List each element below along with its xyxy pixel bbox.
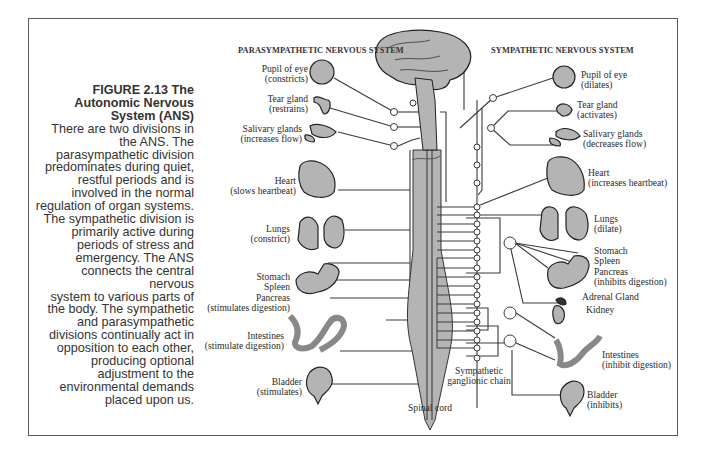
organ-effect: (slows heartbeat)	[220, 186, 296, 196]
organ-effect: (inhibits digestion)	[594, 277, 667, 287]
bladder-icon	[560, 381, 584, 416]
organ-effect: (dilates)	[581, 80, 627, 90]
symp-label-tear-gland: Tear gland (activates)	[577, 100, 618, 121]
tear-gland-icon	[557, 104, 572, 116]
symp-label-bladder: Bladder (inhibits)	[587, 390, 622, 411]
symp-label-lungs: Lungs (dilate)	[594, 214, 622, 235]
eye-icon	[553, 66, 575, 88]
organ-name: Kidney	[586, 305, 614, 315]
heart-icon	[547, 157, 585, 195]
organ-effect: (decreases flow)	[583, 139, 646, 149]
spinal-cord-label: Spinal cord	[408, 403, 452, 413]
heart-icon	[299, 161, 335, 197]
organ-effect: (restrains)	[246, 104, 308, 114]
para-label-bladder: Bladder (stimulates)	[240, 377, 302, 398]
ganglionic-chain-label: Sympathetic ganglionic chain	[444, 366, 514, 387]
intestines-icon	[556, 336, 600, 365]
adrenal-gland-icon	[556, 298, 566, 305]
para-label-pupil: Pupil of eye (constricts)	[246, 64, 308, 85]
salivary-gland-icon	[305, 124, 336, 142]
intestines-icon	[290, 316, 344, 350]
symp-label-adrenal: Adrenal Gland	[582, 292, 639, 302]
symp-label-salivary: Salivary glands (decreases flow)	[583, 129, 646, 150]
sympathetic-header: SYMPATHETIC NERVOUS SYSTEM	[491, 46, 634, 55]
symp-label-heart: Heart (increases heartbeat)	[588, 168, 667, 189]
organ-effect: (activates)	[577, 110, 618, 120]
para-label-heart: Heart (slows heartbeat)	[220, 176, 296, 197]
organ-effect: (inhibits)	[587, 400, 622, 410]
organ-effect: (increases flow)	[226, 134, 302, 144]
symp-label-pupil: Pupil of eye (dilates)	[581, 70, 627, 91]
organ-effect: (stimulates digestion)	[200, 303, 290, 313]
parasympathetic-header: PARASYMPATHETIC NERVOUS SYSTEM	[238, 46, 404, 55]
symp-label-kidney: Kidney	[586, 305, 614, 315]
para-label-stomach: Stomach Spleen Pancreas (stimulates dige…	[200, 272, 290, 314]
para-label-lungs: Lungs (constrict)	[230, 224, 290, 245]
bladder-icon	[307, 367, 333, 404]
salivary-gland-icon	[550, 129, 580, 146]
para-label-salivary: Salivary glands (increases flow)	[226, 124, 302, 145]
stomach-icon	[296, 264, 339, 294]
eye-icon	[310, 60, 334, 84]
organ-name: Adrenal Gland	[582, 292, 639, 302]
organ-effect: (constrict)	[230, 234, 290, 244]
organ-effect: (stimulates)	[240, 387, 302, 397]
chain-label-line: ganglionic chain	[444, 376, 514, 386]
symp-label-stomach: Stomach Spleen Pancreas (inhibits digest…	[594, 246, 667, 288]
lungs-icon	[298, 216, 344, 250]
organ-effect: (dilate)	[594, 224, 622, 234]
kidney-icon	[553, 306, 565, 324]
para-label-tear-gland: Tear gland (restrains)	[246, 94, 308, 115]
organ-effect: (constricts)	[246, 74, 308, 84]
organ-effect: (stimulate digestion)	[200, 341, 284, 351]
organ-effect: (increases heartbeat)	[588, 178, 667, 188]
tear-gland-icon	[314, 97, 330, 114]
lungs-icon	[540, 207, 588, 241]
organ-effect: (inhibit digestion)	[602, 360, 671, 370]
para-label-intestines: Intestines (stimulate digestion)	[200, 331, 284, 352]
symp-label-intestines: Intestines (inhibit digestion)	[602, 350, 671, 371]
